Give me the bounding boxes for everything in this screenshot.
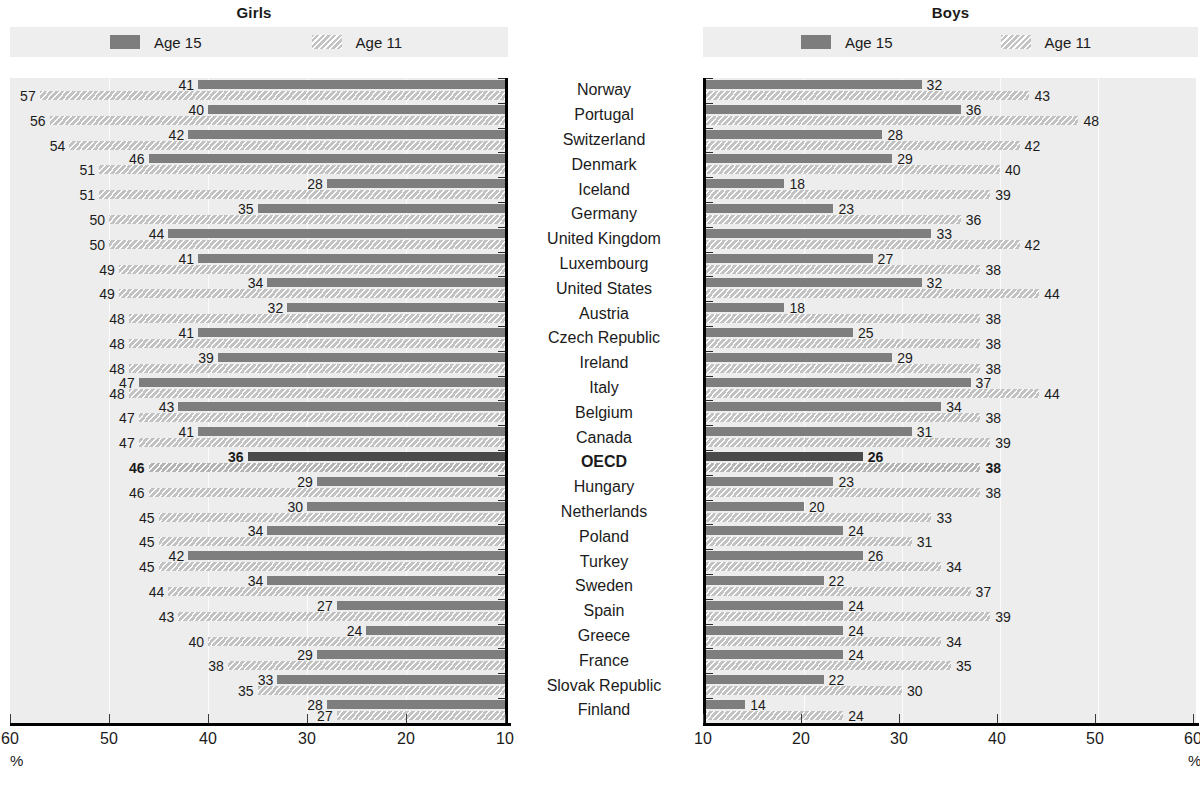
- bar-value-label: 30: [281, 500, 303, 514]
- bar-age-11: [159, 562, 506, 571]
- bar-age-15: [327, 700, 505, 709]
- category-tick: [706, 177, 713, 178]
- bar-value-label: 18: [789, 301, 805, 315]
- bar-age-15: [149, 154, 505, 163]
- bar-age-15: [706, 601, 843, 610]
- bar-value-label: 34: [946, 635, 962, 649]
- bar-age-15: [277, 675, 505, 684]
- bar-value-label: 54: [43, 139, 65, 153]
- category-tick: [706, 252, 713, 253]
- bar-value-label: 38: [985, 411, 1001, 425]
- category-tick: [498, 698, 505, 699]
- solid-dark-swatch-icon: [801, 35, 831, 49]
- axis-tick-label: 50: [1086, 730, 1104, 748]
- bar-age-15: [258, 204, 506, 213]
- axis-unit-girls: %: [10, 752, 23, 769]
- bar-age-15: [706, 675, 824, 684]
- bar-value-label: 38: [985, 337, 1001, 351]
- bar-value-label: 26: [868, 549, 884, 563]
- category-tick: [498, 227, 505, 228]
- bar-age-11: [706, 215, 961, 224]
- bar-row: 3335: [10, 673, 505, 698]
- bar-value-label: 33: [936, 511, 952, 525]
- bar-age-11: [706, 612, 990, 621]
- bar-row: 2435: [706, 648, 1196, 673]
- bar-value-label: 24: [848, 648, 864, 662]
- bar-age-15: [706, 105, 961, 114]
- hatched-light-swatch-icon: [1001, 35, 1031, 49]
- bar-age-15: [706, 303, 784, 312]
- bar-age-15: [287, 303, 505, 312]
- panel-boys: Boys Age 15 Age 11 324336482842294018392…: [600, 0, 1200, 806]
- bar-row: 4347: [10, 400, 505, 425]
- bar-row: 3438: [706, 400, 1196, 425]
- category-tick: [498, 400, 505, 401]
- bar-age-11: [706, 389, 1039, 398]
- bar-row: 3550: [10, 202, 505, 227]
- bar-age-15: [706, 502, 804, 511]
- bar-value-label: 51: [73, 163, 95, 177]
- bar-age-15: [307, 502, 505, 511]
- bar-row: 2237: [706, 574, 1196, 599]
- category-tick: [498, 326, 505, 327]
- bar-age-11: [706, 562, 941, 571]
- bar-age-15: [198, 80, 505, 89]
- bar-age-11: [109, 240, 505, 249]
- axis-labels-boys: 102030405060: [703, 730, 1196, 750]
- bar-age-15: [198, 328, 505, 337]
- bar-row: 4056: [10, 103, 505, 128]
- bar-age-11: [149, 488, 505, 497]
- category-tick: [706, 351, 713, 352]
- bar-value-label: 27: [878, 252, 894, 266]
- bar-value-label: 29: [897, 351, 913, 365]
- bar-value-label: 44: [1044, 287, 1060, 301]
- bar-value-label: 29: [291, 648, 313, 662]
- bar-age-15: [317, 650, 505, 659]
- bar-value-label: 34: [946, 400, 962, 414]
- category-tick: [498, 276, 505, 277]
- bar-value-label: 57: [14, 89, 36, 103]
- axis-unit-boys: %: [1188, 752, 1200, 769]
- category-tick: [706, 326, 713, 327]
- axis-tick: [801, 714, 802, 723]
- bar-row: 3449: [10, 276, 505, 301]
- bar-row: 2938: [10, 648, 505, 673]
- axis-tick: [208, 714, 209, 723]
- legend-item-age15: Age 15: [110, 34, 202, 51]
- bar-age-11: [706, 190, 990, 199]
- axis-tick-label: 40: [988, 730, 1006, 748]
- bar-row: 3248: [10, 301, 505, 326]
- axis-tick-label: 20: [397, 730, 415, 748]
- category-tick: [498, 103, 505, 104]
- plot-area-girls: 4157405642544651285135504450414934493248…: [10, 78, 508, 723]
- chart-page: Girls Age 15 Age 11 41574056425446512851…: [0, 0, 1200, 806]
- axis-tick: [899, 714, 900, 723]
- axis-line-boys: [703, 723, 1199, 726]
- bar-value-label: 45: [133, 511, 155, 525]
- category-tick: [706, 599, 713, 600]
- bar-row: 2638: [706, 450, 1196, 475]
- axis-tick: [505, 714, 506, 723]
- bar-value-label: 39: [995, 188, 1011, 202]
- bar-age-11: [149, 463, 505, 472]
- bar-value-label: 34: [241, 574, 263, 588]
- category-tick: [706, 128, 713, 129]
- bar-age-15: [706, 353, 892, 362]
- bar-value-label: 41: [172, 425, 194, 439]
- bar-row: 4148: [10, 326, 505, 351]
- bar-value-label: 48: [103, 312, 125, 326]
- bar-row: 3342: [706, 227, 1196, 252]
- bar-row: 2033: [706, 500, 1196, 525]
- bar-row: 2946: [10, 475, 505, 500]
- bar-age-15: [706, 452, 863, 461]
- axis-tick: [1095, 714, 1096, 723]
- bar-value-label: 42: [162, 128, 184, 142]
- bar-row: 2230: [706, 673, 1196, 698]
- bar-value-label: 35: [232, 684, 254, 698]
- category-tick: [706, 450, 713, 451]
- bar-age-15: [706, 179, 784, 188]
- legend-item-age15: Age 15: [801, 34, 893, 51]
- bar-age-11: [208, 637, 505, 646]
- category-tick: [706, 524, 713, 525]
- bar-age-11: [139, 413, 505, 422]
